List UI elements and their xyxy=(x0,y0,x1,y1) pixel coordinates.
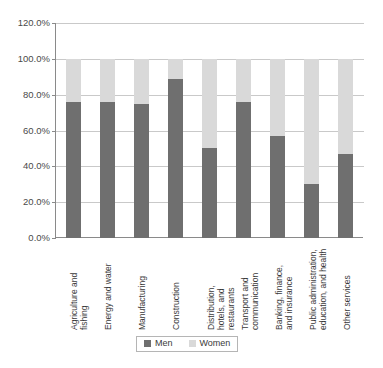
bar-segment-men xyxy=(304,184,319,238)
bar-segment-men xyxy=(100,102,115,238)
bar-segment-women xyxy=(236,59,251,102)
bar-segment-women xyxy=(270,59,285,136)
y-axis-tick-label: 40.0% xyxy=(0,162,50,172)
bar-segment-men xyxy=(134,104,149,238)
y-axis-tick-label: 20.0% xyxy=(0,197,50,207)
bar-group xyxy=(90,23,124,238)
bar-segment-women xyxy=(100,59,115,102)
y-axis-tick-label: 0.0% xyxy=(0,233,50,243)
x-axis-tick-label: Distribution, hotels, and restaurants xyxy=(206,240,236,330)
bar-group xyxy=(158,23,192,238)
bar-segment-men xyxy=(338,154,353,238)
bar-stack xyxy=(338,59,353,238)
stacked-bar-chart: 0.0%20.0%40.0%60.0%80.0%100.0%120.0% Agr… xyxy=(0,0,383,368)
y-axis-tick-label: 80.0% xyxy=(0,90,50,100)
legend-swatch-icon xyxy=(144,340,151,347)
bar-group xyxy=(56,23,90,238)
bar-segment-men xyxy=(66,102,81,238)
x-axis-tick-label: Agriculture and fishing xyxy=(69,240,89,330)
legend-swatch-icon xyxy=(189,340,196,347)
y-axis-tick-label: 100.0% xyxy=(0,54,50,64)
bar-group xyxy=(124,23,158,238)
x-axis-tick-label: Manufacturing xyxy=(137,240,147,330)
bar-group xyxy=(227,23,261,238)
bar-segment-men xyxy=(236,102,251,238)
y-axis-tick xyxy=(52,238,56,239)
bar-stack xyxy=(66,59,81,238)
x-axis-tick-label: Energy and water xyxy=(103,240,113,330)
legend-label: Women xyxy=(200,339,231,348)
bar-stack xyxy=(202,59,217,238)
y-axis-tick-label: 120.0% xyxy=(0,18,50,28)
bar-segment-men xyxy=(202,148,217,238)
bar-segment-women xyxy=(134,59,149,104)
bar-segment-women xyxy=(66,59,81,102)
legend-item: Men xyxy=(144,339,173,348)
bar-segment-women xyxy=(338,59,353,154)
legend-label: Men xyxy=(155,339,173,348)
bar-segment-women xyxy=(304,59,319,184)
bar-stack xyxy=(168,59,183,238)
bar-group xyxy=(329,23,363,238)
x-axis-tick-label: Construction xyxy=(171,240,181,330)
bar-stack xyxy=(236,59,251,238)
y-axis-tick-label: 60.0% xyxy=(0,126,50,136)
bar-stack xyxy=(134,59,149,238)
bar-segment-women xyxy=(202,59,217,149)
x-axis-labels: Agriculture and fishingEnergy and waterM… xyxy=(56,240,363,332)
bar-segment-women xyxy=(168,59,183,79)
x-axis-tick-label: Banking, finance, and insurance xyxy=(274,240,294,330)
x-axis-tick-label: Other services xyxy=(342,240,352,330)
x-axis-tick-label: Public administration, education, and he… xyxy=(308,240,328,330)
bar-stack xyxy=(270,59,285,238)
bar-stack xyxy=(304,59,319,238)
bar-group xyxy=(295,23,329,238)
bar-group xyxy=(261,23,295,238)
bar-group xyxy=(192,23,226,238)
chart-legend: MenWomen xyxy=(136,336,238,352)
bar-segment-men xyxy=(168,79,183,238)
x-axis-tick-label: Transport and communication xyxy=(240,240,260,330)
legend-item: Women xyxy=(189,339,231,348)
bar-segment-men xyxy=(270,136,285,238)
bar-stack xyxy=(100,59,115,238)
bars-layer xyxy=(56,23,363,238)
